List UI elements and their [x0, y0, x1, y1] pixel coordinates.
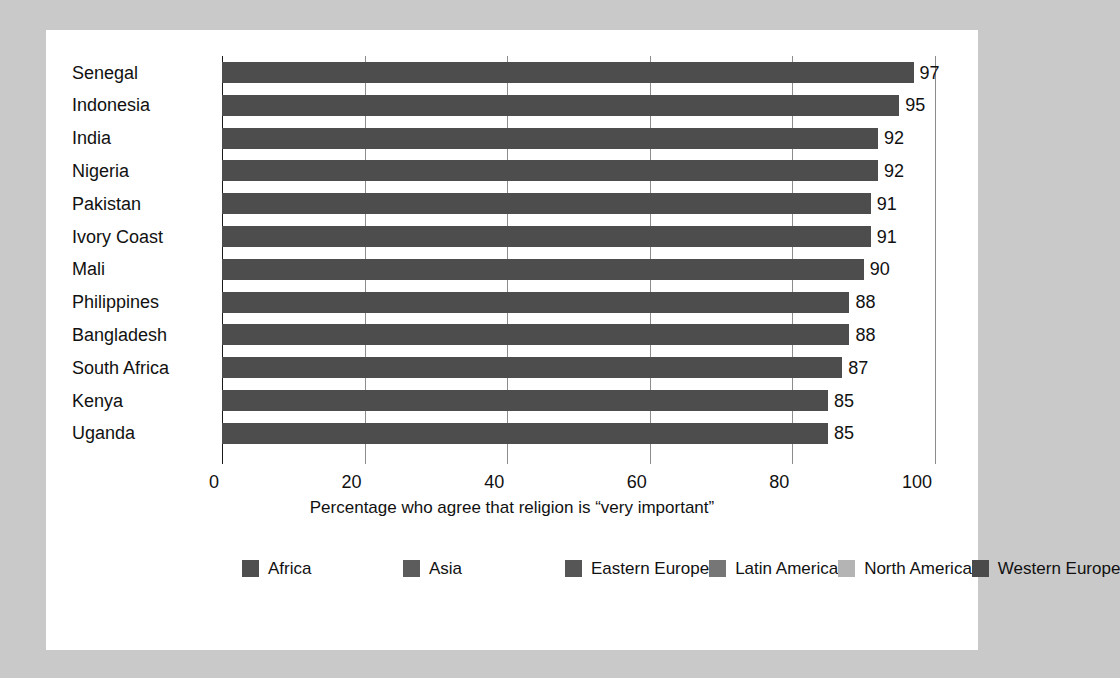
bar-row: 85	[222, 423, 978, 444]
bar-value-label: 88	[849, 292, 875, 313]
legend-label: Eastern Europe	[591, 559, 709, 579]
category-label: Ivory Coast	[72, 228, 222, 246]
category-label: Pakistan	[72, 195, 222, 213]
legend-label: Latin America	[735, 559, 838, 579]
category-label: Philippines	[72, 293, 222, 311]
category-label: Bangladesh	[72, 326, 222, 344]
bar-value-label: 91	[871, 226, 897, 247]
bar[interactable]	[222, 259, 864, 280]
x-tick-label: 60	[627, 472, 651, 493]
bar[interactable]	[222, 226, 871, 247]
legend-item[interactable]: Asia	[403, 552, 565, 585]
bar-row: 90	[222, 259, 978, 280]
legend-item[interactable]: Western Europe	[972, 552, 1120, 585]
bar-row: 88	[222, 324, 978, 345]
bar-value-label: 91	[871, 193, 897, 214]
legend-label: Africa	[268, 559, 311, 579]
category-label: India	[72, 129, 222, 147]
category-label: Uganda	[72, 424, 222, 442]
bar-value-label: 92	[878, 160, 904, 181]
x-tick-label: 40	[484, 472, 508, 493]
bar-value-label: 85	[828, 390, 854, 411]
bar[interactable]	[222, 292, 849, 313]
bar-row: 88	[222, 292, 978, 313]
x-tick-label: 100	[902, 472, 936, 493]
legend-swatch-icon	[403, 560, 420, 577]
bar[interactable]	[222, 160, 878, 181]
bar-value-label: 97	[914, 62, 940, 83]
legend-label: North America	[864, 559, 972, 579]
chart-card: 020406080100Senegal97Indonesia95India92N…	[46, 30, 978, 650]
bar-value-label: 95	[899, 95, 925, 116]
legend-item[interactable]: North America	[838, 552, 972, 585]
category-label: Kenya	[72, 392, 222, 410]
x-tick-label: 20	[342, 472, 366, 493]
bar[interactable]	[222, 390, 828, 411]
bar-value-label: 88	[849, 324, 875, 345]
legend-label: Asia	[429, 559, 462, 579]
bar-value-label: 92	[878, 128, 904, 149]
bar[interactable]	[222, 193, 871, 214]
bar[interactable]	[222, 357, 842, 378]
chart-legend: AfricaAsiaEastern EuropeLatin AmericaNor…	[242, 552, 1120, 585]
plot-area: 020406080100Senegal97Indonesia95India92N…	[46, 30, 978, 470]
legend-item[interactable]: Eastern Europe	[565, 552, 709, 585]
x-tick-label: 80	[769, 472, 793, 493]
bar-value-label: 87	[842, 357, 868, 378]
legend-swatch-icon	[242, 560, 259, 577]
x-axis-title: Percentage who agree that religion is “v…	[46, 498, 978, 518]
bar-value-label: 90	[864, 259, 890, 280]
bar[interactable]	[222, 324, 849, 345]
bar-row: 85	[222, 390, 978, 411]
bar-row: 91	[222, 226, 978, 247]
legend-swatch-icon	[709, 560, 726, 577]
bar[interactable]	[222, 128, 878, 149]
category-label: Nigeria	[72, 162, 222, 180]
x-tick-label: 0	[209, 472, 223, 493]
bar-value-label: 85	[828, 423, 854, 444]
legend-label: Western Europe	[998, 559, 1120, 579]
bar-row: 91	[222, 193, 978, 214]
legend-swatch-icon	[972, 560, 989, 577]
bar-row: 97	[222, 62, 978, 83]
category-label: Indonesia	[72, 96, 222, 114]
bar-row: 95	[222, 95, 978, 116]
bar-row: 87	[222, 357, 978, 378]
bar[interactable]	[222, 95, 899, 116]
category-label: Senegal	[72, 64, 222, 82]
bar[interactable]	[222, 423, 828, 444]
legend-item[interactable]: Latin America	[709, 552, 838, 585]
bar-row: 92	[222, 160, 978, 181]
legend-swatch-icon	[565, 560, 582, 577]
category-label: South Africa	[72, 359, 222, 377]
bar[interactable]	[222, 62, 914, 83]
legend-item[interactable]: Africa	[242, 552, 403, 585]
legend-swatch-icon	[838, 560, 855, 577]
category-label: Mali	[72, 260, 222, 278]
bar-row: 92	[222, 128, 978, 149]
